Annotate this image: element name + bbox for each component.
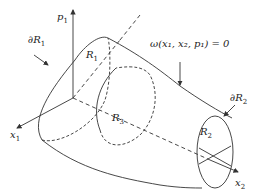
label-dR1: ∂R1 bbox=[28, 35, 45, 48]
dR2-pointer bbox=[224, 105, 235, 116]
dR1-pointer bbox=[34, 55, 48, 65]
label-surface-equation: ω(x₁, x₂, p₁) = 0 bbox=[150, 39, 229, 49]
label-R1: R1 bbox=[86, 50, 98, 63]
x2-axis-dashed bbox=[73, 98, 210, 160]
label-R2: R2 bbox=[200, 127, 212, 140]
dashed-guide bbox=[73, 40, 120, 98]
diagram-canvas: p1 x1 x2 ∂R1 ∂R2 R1 R2 R3 ω(x₁, x₂, p₁) … bbox=[0, 0, 258, 192]
label-R3: R3 bbox=[112, 113, 124, 126]
label-x2: x2 bbox=[235, 178, 245, 191]
tube-diagram bbox=[0, 0, 258, 192]
tube-top bbox=[108, 38, 232, 118]
label-dR2: ∂R2 bbox=[230, 93, 247, 106]
label-x1: x1 bbox=[10, 130, 20, 143]
tube-bottom bbox=[42, 140, 202, 188]
label-p1: p1 bbox=[57, 12, 68, 25]
